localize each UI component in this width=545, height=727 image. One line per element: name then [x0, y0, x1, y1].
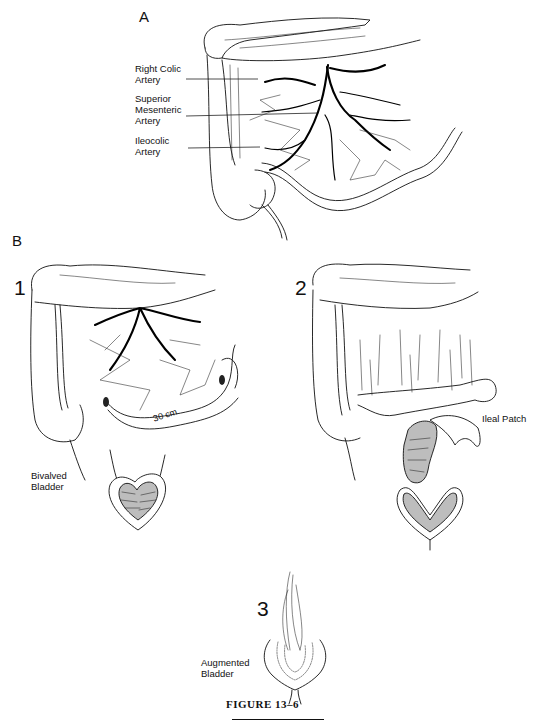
augmented-bladder-illustration [0, 0, 545, 727]
caption-underline [232, 719, 324, 720]
figure-caption: FIGURE 13–6 [226, 698, 299, 710]
